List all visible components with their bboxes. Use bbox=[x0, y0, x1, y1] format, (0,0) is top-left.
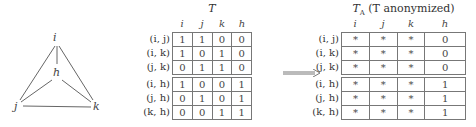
table-t-block-2: 1 0 0 1 0 1 0 1 0 0 1 1 bbox=[172, 77, 252, 120]
cell: 0 bbox=[425, 47, 466, 61]
graph-diagram: i h j k bbox=[0, 0, 120, 127]
table-row: 1 0 1 0 bbox=[173, 47, 252, 61]
cell: 1 bbox=[173, 33, 193, 47]
table-ta-title-main: T bbox=[352, 2, 359, 15]
table-row: * * * 1 bbox=[342, 78, 466, 92]
cell: 1 bbox=[173, 78, 193, 92]
table-ta-col-h: h bbox=[425, 18, 465, 29]
cell: * bbox=[342, 33, 370, 47]
table-row: * * * 1 bbox=[342, 106, 466, 120]
cell: * bbox=[369, 106, 397, 120]
cell: * bbox=[342, 47, 370, 61]
table-t-row-label: (i, h) bbox=[130, 78, 170, 89]
cell: 0 bbox=[173, 92, 193, 106]
cell: * bbox=[342, 92, 370, 106]
cell: 0 bbox=[173, 61, 193, 75]
cell: * bbox=[397, 47, 425, 61]
table-ta-block-1: * * * 0 * * * 0 * * * 0 bbox=[341, 32, 466, 75]
cell: 1 bbox=[212, 47, 232, 61]
cell: 1 bbox=[232, 92, 252, 106]
table-t-col-k: k bbox=[212, 18, 232, 29]
cell: * bbox=[397, 61, 425, 75]
table-ta-row-label: (i, j) bbox=[299, 33, 339, 44]
cell: 1 bbox=[192, 33, 212, 47]
cell: 0 bbox=[232, 47, 252, 61]
cell: * bbox=[397, 106, 425, 120]
table-t-row-label: (i, j) bbox=[130, 33, 170, 44]
table-ta-col-k: k bbox=[397, 18, 425, 29]
node-h: h bbox=[53, 66, 60, 79]
cell: * bbox=[342, 61, 370, 75]
cell: 1 bbox=[192, 61, 212, 75]
cell: * bbox=[397, 92, 425, 106]
table-ta-title: TA (T anonymized) bbox=[341, 2, 466, 17]
cell: 1 bbox=[192, 92, 212, 106]
table-row: * * * 0 bbox=[342, 33, 466, 47]
cell: 1 bbox=[232, 78, 252, 92]
cell: * bbox=[397, 78, 425, 92]
table-t-col-j: j bbox=[192, 18, 212, 29]
table-row: * * * 0 bbox=[342, 47, 466, 61]
table-ta-col-i: i bbox=[341, 18, 369, 29]
cell: 0 bbox=[173, 106, 193, 120]
table-ta-title-sub: A bbox=[360, 9, 365, 17]
cell: * bbox=[369, 61, 397, 75]
graph-edges bbox=[0, 0, 120, 127]
table-row: 0 1 1 0 bbox=[173, 61, 252, 75]
table-ta-row-label: (i, k) bbox=[299, 47, 339, 58]
table-ta-row-label: (k, h) bbox=[299, 106, 339, 117]
cell: 0 bbox=[192, 78, 212, 92]
node-k: k bbox=[93, 100, 100, 113]
cell: * bbox=[369, 78, 397, 92]
table-t-title: T bbox=[172, 2, 252, 15]
table-ta-title-paren: (T anonymized) bbox=[368, 2, 454, 15]
cell: 0 bbox=[425, 33, 466, 47]
table-ta-col-j: j bbox=[369, 18, 397, 29]
cell: * bbox=[369, 33, 397, 47]
cell: 0 bbox=[425, 61, 466, 75]
cell: 0 bbox=[212, 33, 232, 47]
table-t-row-label: (j, h) bbox=[130, 92, 170, 103]
table-t-row-label: (k, h) bbox=[130, 106, 170, 117]
table-row: 0 0 1 1 bbox=[173, 106, 252, 120]
cell: * bbox=[369, 92, 397, 106]
cell: 0 bbox=[212, 92, 232, 106]
table-row: 0 1 0 1 bbox=[173, 92, 252, 106]
cell: * bbox=[342, 78, 370, 92]
cell: 0 bbox=[192, 47, 212, 61]
cell: 1 bbox=[232, 106, 252, 120]
table-t-row-label: (i, k) bbox=[130, 47, 170, 58]
cell: * bbox=[369, 47, 397, 61]
table-row: * * * 1 bbox=[342, 92, 466, 106]
cell: * bbox=[397, 33, 425, 47]
table-ta-row-label: (i, h) bbox=[299, 78, 339, 89]
node-j: j bbox=[14, 100, 17, 113]
cell: 1 bbox=[173, 47, 193, 61]
table-ta-row-label: (j, h) bbox=[299, 92, 339, 103]
cell: 0 bbox=[192, 106, 212, 120]
table-row: 1 1 0 0 bbox=[173, 33, 252, 47]
node-i: i bbox=[53, 31, 57, 44]
table-t-col-h: h bbox=[232, 18, 252, 29]
table-t-row-label: (j, k) bbox=[130, 61, 170, 72]
cell: 1 bbox=[212, 61, 232, 75]
table-t-col-i: i bbox=[172, 18, 192, 29]
cell: * bbox=[342, 106, 370, 120]
cell: 1 bbox=[425, 92, 466, 106]
cell: 1 bbox=[212, 106, 232, 120]
table-row: * * * 0 bbox=[342, 61, 466, 75]
table-ta-block-2: * * * 1 * * * 1 * * * 1 bbox=[341, 77, 466, 120]
table-ta-row-label: (j, k) bbox=[299, 61, 339, 72]
cell: 1 bbox=[425, 106, 466, 120]
cell: 1 bbox=[425, 78, 466, 92]
cell: 0 bbox=[232, 61, 252, 75]
cell: 0 bbox=[232, 33, 252, 47]
cell: 0 bbox=[212, 78, 232, 92]
table-row: 1 0 0 1 bbox=[173, 78, 252, 92]
table-t-block-1: 1 1 0 0 1 0 1 0 0 1 1 0 bbox=[172, 32, 252, 75]
